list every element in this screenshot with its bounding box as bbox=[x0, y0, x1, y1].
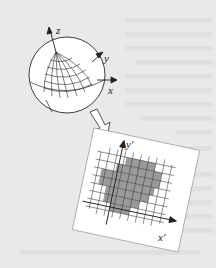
y-prime-axis-label: y' bbox=[125, 138, 134, 150]
x-prime-axis-label: x' bbox=[157, 231, 166, 243]
x-axis-label: x bbox=[107, 84, 113, 96]
sphere bbox=[29, 37, 105, 113]
z-axis-label: z bbox=[55, 24, 61, 36]
projection-plane bbox=[72, 128, 199, 252]
sphere-to-plane-diagram: z y x bbox=[0, 0, 216, 268]
y-axis-label: y bbox=[103, 52, 109, 64]
